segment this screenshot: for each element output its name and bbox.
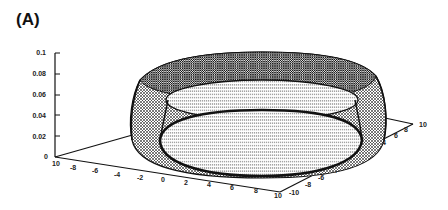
svg-text:6: 6 — [394, 132, 398, 139]
svg-text:6: 6 — [230, 184, 234, 191]
svg-text:2: 2 — [184, 179, 188, 186]
svg-text:0.08: 0.08 — [32, 70, 46, 77]
surface-plot: 0.1 0.08 0.06 0.04 0.02 0 10 -8 -6 -4 -2… — [0, 0, 448, 210]
svg-text:-8: -8 — [305, 181, 311, 188]
svg-text:0.06: 0.06 — [32, 91, 46, 98]
svg-text:10: 10 — [52, 160, 60, 167]
svg-text:0: 0 — [161, 176, 165, 183]
svg-text:10: 10 — [274, 192, 282, 199]
svg-text:-10: -10 — [289, 189, 299, 196]
svg-text:-8: -8 — [70, 164, 76, 171]
svg-text:-6: -6 — [92, 167, 98, 174]
ring-surface — [130, 52, 386, 178]
svg-text:8: 8 — [404, 126, 408, 133]
svg-text:8: 8 — [254, 187, 258, 194]
z-ticks — [55, 53, 60, 136]
svg-text:-2: -2 — [137, 174, 143, 181]
svg-text:-4: -4 — [114, 171, 120, 178]
svg-text:0: 0 — [44, 153, 48, 160]
svg-text:0.02: 0.02 — [32, 133, 46, 140]
z-tick-labels: 0.1 0.08 0.06 0.04 0.02 0 — [32, 49, 48, 160]
svg-text:0.1: 0.1 — [36, 49, 46, 56]
svg-text:4: 4 — [207, 181, 211, 188]
back-right-edge — [385, 118, 413, 124]
svg-text:10: 10 — [419, 121, 427, 128]
svg-text:0.04: 0.04 — [32, 112, 46, 119]
